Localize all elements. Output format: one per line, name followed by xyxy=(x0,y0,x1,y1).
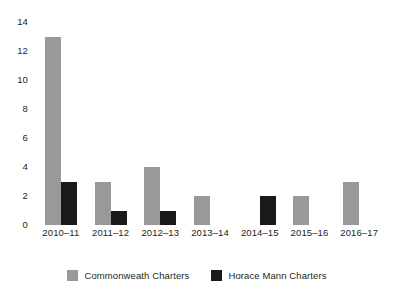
y-axis-tick-label: 6 xyxy=(23,133,28,143)
bar-slot xyxy=(144,22,160,225)
y-axis: 02468101214 xyxy=(0,0,36,303)
bar-slot xyxy=(45,22,61,225)
bar-group xyxy=(334,22,384,225)
bar-slot xyxy=(359,22,375,225)
y-axis-tick-label: 8 xyxy=(23,104,28,114)
legend-label: Horace Mann Charters xyxy=(228,271,326,281)
bar-slot xyxy=(260,22,276,225)
bar-slot xyxy=(343,22,359,225)
bar-group xyxy=(285,22,335,225)
bar-2012-13-series-0 xyxy=(144,167,160,225)
x-axis-tick-label: 2012–13 xyxy=(135,228,185,238)
legend-item-0[interactable]: Commonweath Charters xyxy=(67,270,189,281)
y-axis-tick-label: 12 xyxy=(17,46,28,56)
bar-2016-17-series-0 xyxy=(343,182,359,226)
bar-chart: 02468101214 2010–112011–122012–132013–14… xyxy=(0,0,394,303)
bar-group xyxy=(235,22,285,225)
bar-slot xyxy=(244,22,260,225)
y-axis-tick-label: 14 xyxy=(17,17,28,27)
bar-2011-12-series-0 xyxy=(95,182,111,226)
legend-item-1[interactable]: Horace Mann Charters xyxy=(211,270,326,281)
bar-2010-11-series-1 xyxy=(61,182,77,226)
y-axis-tick-label: 10 xyxy=(17,75,28,85)
bar-slot xyxy=(194,22,210,225)
x-axis-tick-label: 2011–12 xyxy=(86,228,136,238)
bar-group xyxy=(86,22,136,225)
bar-group xyxy=(185,22,235,225)
legend-label: Commonweath Charters xyxy=(84,271,189,281)
legend-swatch-icon xyxy=(67,270,78,281)
x-axis-tick-label: 2013–14 xyxy=(185,228,235,238)
y-axis-tick-label: 0 xyxy=(23,220,28,230)
chart-legend: Commonweath ChartersHorace Mann Charters xyxy=(0,270,394,281)
bar-slot xyxy=(111,22,127,225)
bar-slot xyxy=(210,22,226,225)
x-axis-tick-label: 2014–15 xyxy=(235,228,285,238)
bar-slot xyxy=(95,22,111,225)
bar-2014-15-series-1 xyxy=(260,196,276,225)
bar-slot xyxy=(309,22,325,225)
x-axis-tick-label: 2010–11 xyxy=(36,228,86,238)
bar-slot xyxy=(61,22,77,225)
bar-2015-16-series-0 xyxy=(293,196,309,225)
x-axis-tick-label: 2015–16 xyxy=(285,228,335,238)
bar-slot xyxy=(160,22,176,225)
y-axis-tick-label: 2 xyxy=(23,191,28,201)
bar-2012-13-series-1 xyxy=(160,211,176,226)
x-axis: 2010–112011–122012–132013–142014–152015–… xyxy=(36,228,384,238)
bar-group xyxy=(135,22,185,225)
y-axis-tick-label: 4 xyxy=(23,162,28,172)
plot-area xyxy=(36,22,384,225)
bar-slot xyxy=(293,22,309,225)
bar-2011-12-series-1 xyxy=(111,211,127,226)
bar-2010-11-series-0 xyxy=(45,37,61,226)
legend-swatch-icon xyxy=(211,270,222,281)
x-axis-tick-label: 2016–17 xyxy=(334,228,384,238)
bar-group xyxy=(36,22,86,225)
bar-2013-14-series-0 xyxy=(194,196,210,225)
